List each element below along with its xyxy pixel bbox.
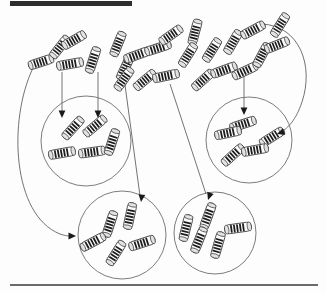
arrow-to-lower-left [125,85,140,196]
scattered-component [187,18,202,45]
clustered-component-cluster-upper-left [48,146,76,160]
arrowhead-icon [138,194,146,202]
scattered-component [152,69,180,83]
scattered-component [201,37,222,64]
clustered-component-cluster-lower-right [224,222,252,235]
component-items-layer [27,12,290,267]
clustered-component-cluster-upper-left [82,114,108,138]
clustered-component-cluster-lower-right [199,202,217,230]
upper-left-cluster [41,96,131,186]
clustered-component-cluster-lower-left [128,235,156,252]
arrowhead-icon [59,111,66,119]
clustering-figure [0,0,326,293]
clustered-component-cluster-lower-right [190,226,208,254]
scattered-component [239,20,266,40]
scattered-component [85,46,102,74]
clustered-component-cluster-lower-left [105,239,127,267]
clustered-component-cluster-lower-left [79,232,107,253]
arrow-to-upper-right-head [241,108,248,116]
scattered-component [269,12,290,39]
clustered-component-cluster-upper-right [241,143,269,157]
arrowhead-icon [69,233,77,240]
scattered-component [109,30,127,57]
clustered-component-cluster-lower-right [210,231,226,259]
clustered-component-cluster-upper-right [214,126,242,140]
clustered-component-cluster-upper-right [220,143,246,168]
clustered-component-cluster-upper-left [104,128,121,156]
scattered-component [177,42,198,69]
clustered-component-cluster-upper-left [61,115,86,141]
arrow-to-upper-left-a-head [59,111,66,119]
arrow-to-lower-left-head [138,194,146,202]
top-rule-bar [10,1,132,6]
arrow-to-lower-right [170,84,206,194]
arrowhead-icon [241,108,248,116]
scattered-component [60,30,87,51]
upper-right-cluster [206,97,292,183]
lower-left-cluster [78,191,166,279]
clustered-component-cluster-upper-left [78,146,106,159]
scattered-component [56,57,84,71]
arrow-curved-left-to-lower-left-head [69,233,77,240]
scattered-component [263,36,290,54]
clustered-component-cluster-lower-right [178,214,193,242]
clustered-component-cluster-lower-left [123,202,137,230]
figure-canvas [0,0,326,293]
scattered-component [158,24,184,46]
